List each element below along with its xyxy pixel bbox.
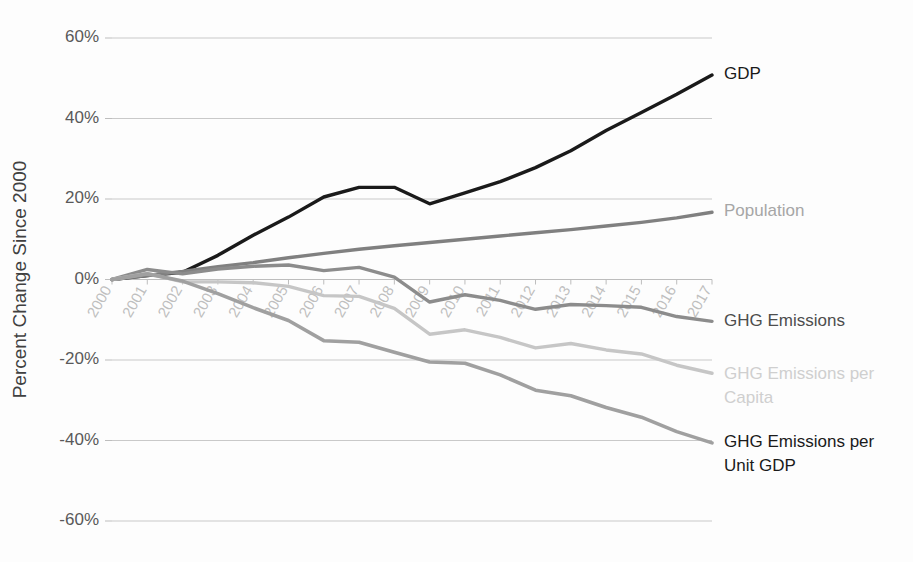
series-label: GHG Emissions perUnit GDP: [724, 432, 875, 475]
y-axis-tick-label: 20%: [65, 188, 99, 207]
y-axis-tick-label: -20%: [59, 349, 99, 368]
x-axis-tick-labels: 2000200120022003200420052006200720082009…: [83, 283, 714, 320]
y-axis-tick-labels: 60%40%20%0%-20%-40%-60%: [59, 27, 99, 529]
series-lines-group: [112, 75, 712, 443]
x-axis-tick-label: 2007: [330, 283, 361, 320]
x-axis-tick-label: 2000: [83, 283, 114, 320]
x-axis-tick-label: 2001: [118, 283, 149, 320]
series-label-text: GHG Emissions: [724, 311, 845, 330]
series-label-text: GDP: [724, 64, 761, 83]
y-axis-tick-label: -60%: [59, 510, 99, 529]
line-chart: 60%40%20%0%-20%-40%-60% 2000200120022003…: [0, 0, 913, 562]
x-axis-tick-label: 2013: [542, 283, 573, 320]
chart-container: 60%40%20%0%-20%-40%-60% 2000200120022003…: [0, 0, 913, 562]
series-label-text: Capita: [724, 388, 774, 407]
y-axis-tick-label: 60%: [65, 27, 99, 46]
series-label: Population: [724, 201, 804, 220]
y-axis-tick-label: 0%: [74, 269, 99, 288]
series-label-text: GHG Emissions per: [724, 432, 875, 451]
series-label: GHG Emissions perCapita: [724, 364, 875, 407]
x-axis-tick-label: 2002: [154, 283, 185, 320]
y-axis-tick-label: -40%: [59, 430, 99, 449]
series-label: GDP: [724, 64, 761, 83]
x-axis-tick-label: 2017: [683, 283, 714, 320]
series-label: GHG Emissions: [724, 311, 845, 330]
series-line: [112, 75, 712, 279]
x-axis-tick-label: 2012: [507, 283, 538, 320]
y-axis-tick-label: 40%: [65, 108, 99, 127]
x-axis-tick-label: 2015: [613, 283, 644, 320]
x-axis-tick-label: 2014: [577, 283, 608, 320]
series-labels-group: GDPPopulationGHG EmissionsGHG Emissions …: [724, 64, 875, 475]
series-label-text: Population: [724, 201, 804, 220]
series-label-text: Unit GDP: [724, 456, 796, 475]
series-label-text: GHG Emissions per: [724, 364, 875, 383]
y-axis-title: Percent Change Since 2000: [9, 161, 30, 399]
series-line: [112, 212, 712, 279]
